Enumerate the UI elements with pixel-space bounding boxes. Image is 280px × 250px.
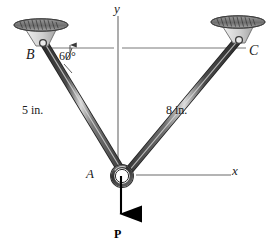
pin-eye-c (236, 37, 243, 44)
label-angle-60: 60° (59, 50, 76, 62)
support-c (211, 16, 265, 44)
label-axis-y: y (114, 2, 120, 15)
member-ab (44, 43, 125, 176)
figure-canvas (0, 0, 280, 250)
label-joint-c: C (249, 44, 258, 58)
label-axis-x: x (232, 164, 238, 177)
label-joint-b: B (26, 48, 35, 62)
label-force-p: P (114, 228, 121, 240)
label-length-ac: 8 in. (166, 104, 187, 116)
coordinate-axes (118, 16, 231, 176)
statics-figure: B C A y x 60° 5 in. 8 in. P (0, 0, 280, 250)
support-pad-c (211, 16, 265, 28)
label-length-ab: 5 in. (22, 104, 43, 116)
support-pad-b (14, 19, 68, 31)
pin-eye-b (40, 40, 47, 47)
support-b (14, 19, 68, 47)
label-joint-a: A (86, 167, 94, 180)
